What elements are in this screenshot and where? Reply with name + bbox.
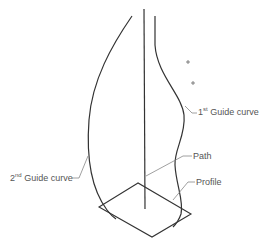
label-text: Guide curve [208,107,259,117]
plus-marker-icon [186,60,190,64]
path-line [144,9,145,209]
ordinal-suffix: nd [15,172,22,178]
guide1-leader [185,106,197,113]
second-guide-curve [88,16,132,219]
path-label: Path [193,151,212,161]
second-guide-curve-label: 2nd Guide curve [10,173,73,183]
guide2-leader [72,156,88,178]
first-guide-curve-label: 1st Guide curve [198,107,259,117]
plus-marker-icon [191,81,195,85]
sweep-diagram: 1st Guide curve 2nd Guide curve Path Pro… [0,0,261,247]
profile-label: Profile [196,177,222,187]
diagram-drawing [0,0,261,247]
label-text: Guide curve [22,173,73,183]
profile-leader [173,182,195,200]
path-leader [146,156,192,176]
